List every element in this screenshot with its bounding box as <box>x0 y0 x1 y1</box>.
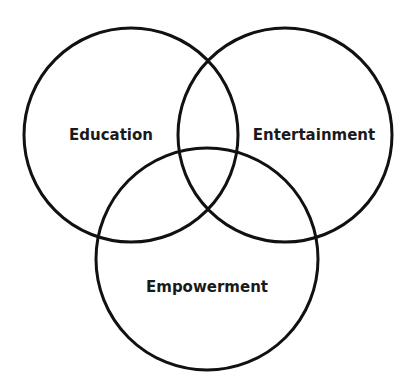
label-empowerment: Empowerment <box>146 278 268 296</box>
circle-empowerment <box>96 148 318 370</box>
venn-diagram: Education Entertainment Empowerment <box>0 0 413 389</box>
label-entertainment: Entertainment <box>253 126 375 144</box>
label-education: Education <box>69 126 153 144</box>
